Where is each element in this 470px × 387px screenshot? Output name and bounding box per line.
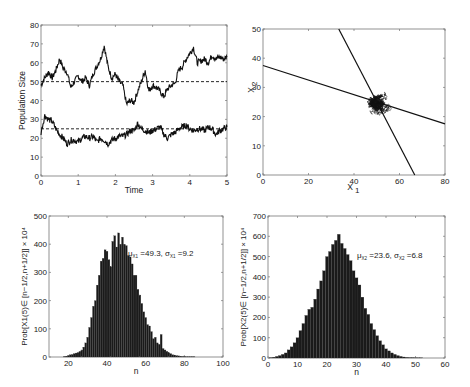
- x-tick-label: 40: [103, 359, 112, 368]
- histogram-bar: [340, 243, 343, 358]
- y-axis-label: Prob[X1(5)∈ [n−1/2,n+1/2]] × 10⁴: [20, 227, 29, 346]
- x-tick-label: 3: [150, 178, 155, 187]
- x-axis-label: X: [347, 182, 353, 192]
- histogram-bar: [346, 255, 349, 358]
- histogram-bar: [178, 356, 180, 357]
- histogram-bar: [183, 356, 185, 357]
- histogram-bar: [158, 344, 160, 357]
- histogram-bar: [164, 350, 166, 357]
- histogram-bar: [296, 338, 299, 358]
- histogram-bar: [137, 289, 139, 357]
- histogram-bar: [275, 356, 278, 358]
- histogram-bar: [337, 234, 340, 358]
- histogram-bar: [151, 332, 153, 357]
- y-tick-label: 600: [253, 232, 267, 241]
- histogram-bar: [172, 355, 174, 357]
- x-axis-label: Time: [125, 185, 144, 195]
- histogram-bar: [93, 306, 95, 357]
- x-tick-label: 1: [76, 178, 81, 187]
- y-tick-label: 100: [253, 334, 267, 343]
- histogram-bar: [123, 244, 125, 357]
- histogram-bar: [162, 349, 164, 357]
- histogram-bar: [302, 324, 305, 358]
- trajectory-path: [367, 92, 391, 115]
- histogram-bar: [91, 318, 93, 357]
- x-tick-label: 0: [39, 178, 44, 187]
- histogram-bar: [94, 301, 96, 357]
- histogram-bar: [168, 353, 170, 357]
- histogram-bar: [149, 326, 151, 357]
- histogram-bar: [284, 353, 287, 358]
- y-tick-label: 700: [253, 212, 267, 221]
- histogram-bar: [77, 352, 79, 357]
- y-tick-label: 70: [30, 40, 39, 49]
- histogram-bar: [143, 312, 145, 357]
- x-tick-label: 50: [411, 360, 420, 369]
- series-line-x2: [41, 114, 227, 146]
- histogram-bar: [129, 257, 131, 357]
- y-tick-label: 40: [252, 54, 261, 63]
- histogram-bar: [180, 356, 182, 357]
- x-tick-label: 40: [382, 360, 391, 369]
- histogram-bar: [87, 337, 89, 357]
- y-axis-label: Population Size: [17, 71, 27, 130]
- x-tick-label: 20: [304, 177, 313, 186]
- histogram-bar: [314, 299, 317, 358]
- y-axis-label: X: [246, 87, 256, 93]
- y-tick-label: 500: [253, 253, 267, 262]
- x-tick-label: 4: [188, 178, 193, 187]
- x-tick-label: 10: [293, 360, 302, 369]
- x-tick-label: 80: [441, 177, 450, 186]
- y-tick-label: 80: [30, 21, 39, 30]
- histogram-bar: [402, 357, 405, 358]
- y-axis-label-sub: 2: [250, 81, 259, 86]
- histogram-bar: [299, 331, 302, 358]
- histogram-bar: [358, 285, 361, 358]
- x-tick-label: 60: [441, 360, 450, 369]
- time-series-plot: 01234501020304050607080TimePopulation Si…: [17, 21, 230, 195]
- histogram-bar: [73, 354, 75, 357]
- histogram-bar: [370, 324, 373, 358]
- histogram-bar: [308, 309, 311, 358]
- histogram-bar: [176, 356, 178, 357]
- y-axis-label: Prob[X2(5)∈ [n−1/2,n+1/2]] × 10⁴: [239, 227, 248, 346]
- histogram-bar: [114, 236, 116, 357]
- histogram-bar: [145, 318, 147, 357]
- x-tick-label: 60: [141, 359, 150, 368]
- histogram-bar: [311, 307, 314, 358]
- histogram-bar: [104, 250, 106, 357]
- histogram-bar: [320, 281, 323, 358]
- histogram-bar: [127, 255, 129, 357]
- y-tick-label: 400: [253, 273, 267, 282]
- x-tick-label: 2: [113, 178, 118, 187]
- histogram-bar: [317, 289, 320, 358]
- histogram-bar: [349, 261, 352, 358]
- histogram-bar: [65, 356, 67, 357]
- histogram-bar: [102, 258, 104, 357]
- histogram-bar: [287, 350, 290, 358]
- x-tick-label: 5: [225, 178, 230, 187]
- histogram-bar: [118, 233, 120, 357]
- y-tick-label: 20: [252, 113, 261, 122]
- x-tick-label: 100: [216, 359, 230, 368]
- x-axis-label: n: [134, 366, 139, 376]
- y-tick-label: 200: [34, 297, 48, 306]
- histogram-bar: [343, 248, 346, 358]
- histogram-bar: [278, 356, 281, 358]
- histogram-bar: [141, 303, 143, 357]
- y-tick-label: 30: [30, 115, 39, 124]
- stats-annotation: μX2 =23.6, σX2 =6.8: [357, 251, 423, 261]
- histogram-bar: [166, 351, 168, 357]
- histogram-bar: [331, 244, 334, 358]
- figure-canvas: 01234501020304050607080TimePopulation Si…: [0, 0, 470, 387]
- histogram-bar: [393, 354, 396, 358]
- histogram-bar: [79, 351, 81, 357]
- histogram-bar: [116, 247, 118, 357]
- histogram-bar: [355, 278, 358, 358]
- y-tick-label: 0: [43, 353, 48, 362]
- histogram-bar: [323, 271, 326, 358]
- histogram-bar: [85, 343, 87, 357]
- histogram-bar: [125, 246, 127, 357]
- y-tick-label: 50: [30, 78, 39, 87]
- y-tick-label: 100: [34, 325, 48, 334]
